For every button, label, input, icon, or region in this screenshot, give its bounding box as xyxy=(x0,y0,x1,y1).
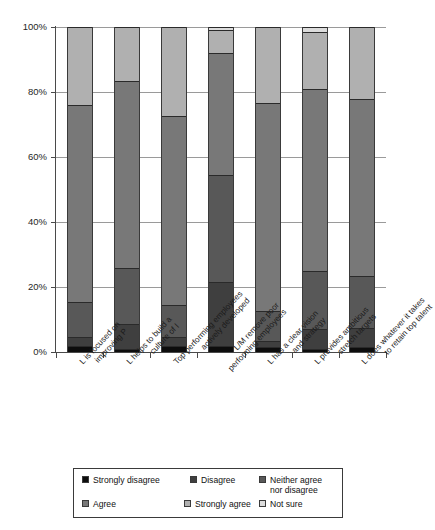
legend-swatch-icon xyxy=(259,476,266,483)
legend-item[interactable]: Strongly disagree xyxy=(82,475,160,485)
table-row xyxy=(161,27,187,352)
legend-swatch-icon xyxy=(259,500,266,507)
bar-segment xyxy=(115,81,139,268)
bar-segment xyxy=(209,53,233,175)
y-tick-mark xyxy=(51,27,56,28)
legend-label: Neither agree nor disagree xyxy=(270,475,322,495)
legend-swatch-icon xyxy=(82,500,89,507)
bar-segment xyxy=(162,27,186,116)
legend-label: Strongly disagree xyxy=(93,475,160,485)
legend-item[interactable]: Strongly agree xyxy=(184,499,251,509)
y-tick-mark xyxy=(51,222,56,223)
bar-segment xyxy=(209,175,233,282)
legend-swatch-icon xyxy=(184,500,191,507)
y-tick-label: 20% xyxy=(0,281,47,292)
chart-legend: Strongly disagreeDisagreeNeither agree n… xyxy=(73,468,343,518)
bar-segment xyxy=(115,268,139,325)
legend-item[interactable]: Not sure xyxy=(259,499,302,509)
legend-label: Not sure xyxy=(270,499,302,509)
bar-segment xyxy=(350,27,374,99)
table-row xyxy=(67,27,93,352)
legend-item[interactable]: Disagree xyxy=(190,475,235,485)
y-tick-label: 60% xyxy=(0,151,47,162)
category-label-line: to retain top talent xyxy=(368,302,435,373)
legend-label: Strongly agree xyxy=(195,499,251,509)
bar-segment xyxy=(68,105,92,302)
y-tick-label: 40% xyxy=(0,216,47,227)
y-axis-line xyxy=(55,26,56,353)
table-row xyxy=(114,27,140,352)
bar-segment xyxy=(303,89,327,271)
bar-segment xyxy=(68,302,92,338)
y-tick-mark xyxy=(51,157,56,158)
bar-segment xyxy=(162,116,186,305)
legend-label: Agree xyxy=(93,499,116,509)
table-row xyxy=(349,27,375,352)
y-tick-mark xyxy=(51,92,56,93)
y-tick-label: 0% xyxy=(0,346,47,357)
bar-segment xyxy=(209,30,233,53)
y-tick-label: 100% xyxy=(0,21,47,32)
bar-segment xyxy=(256,103,280,311)
legend-swatch-icon xyxy=(82,476,89,483)
x-tick-mark xyxy=(56,352,57,358)
bar-segment xyxy=(68,337,92,345)
legend-item[interactable]: Neither agree nor disagree xyxy=(259,475,322,495)
legend-item[interactable]: Agree xyxy=(82,499,116,509)
bar-segment xyxy=(115,27,139,81)
bar-segment xyxy=(350,99,374,276)
legend-swatch-icon xyxy=(190,476,197,483)
bar-segment xyxy=(256,27,280,103)
bar-segment xyxy=(303,32,327,89)
table-row xyxy=(302,27,328,352)
y-tick-label: 80% xyxy=(0,86,47,97)
y-tick-mark xyxy=(51,287,56,288)
bar-segment xyxy=(68,27,92,105)
legend-label: Disagree xyxy=(201,475,235,485)
